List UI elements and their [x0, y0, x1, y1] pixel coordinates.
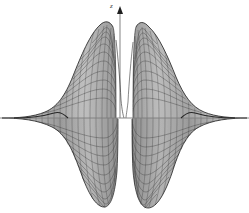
- surface-plot-figure: z: [0, 0, 249, 213]
- plot-background: [0, 0, 249, 213]
- z-axis-label: z: [110, 3, 113, 10]
- surface-plot-canvas: [0, 0, 249, 213]
